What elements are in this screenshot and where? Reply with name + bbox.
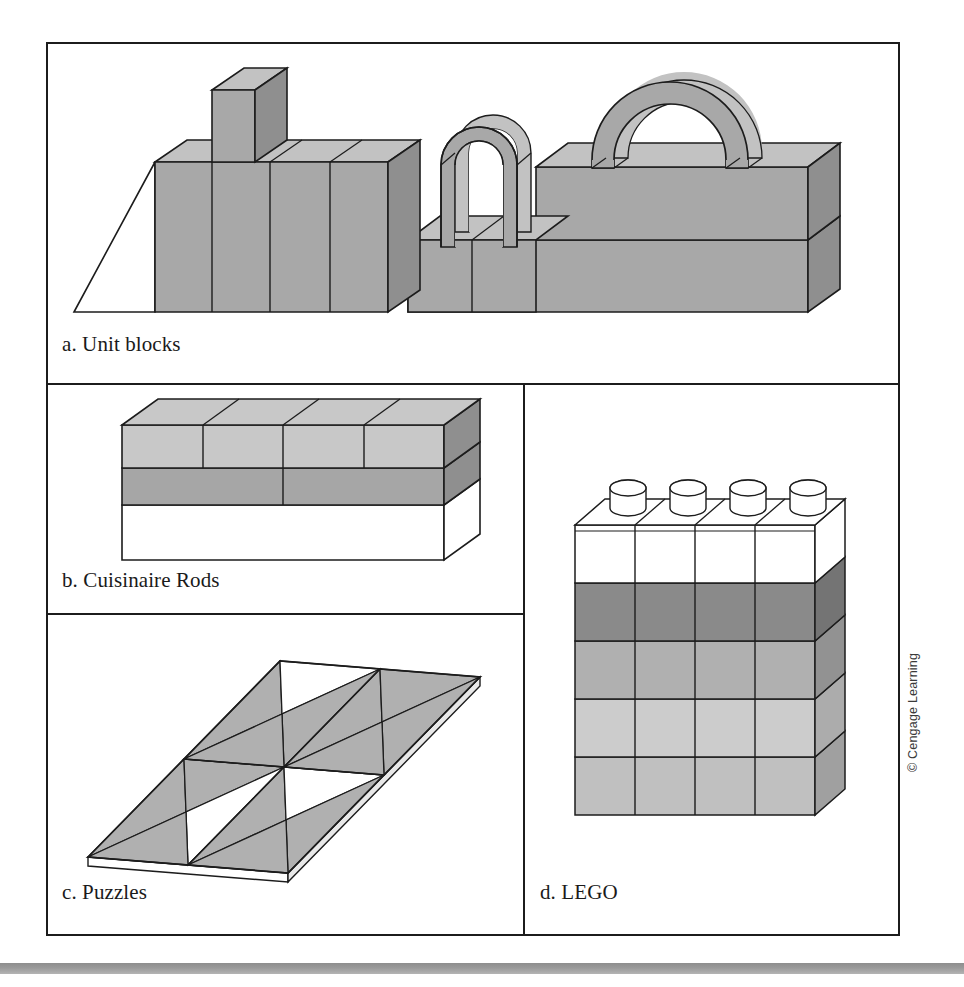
- figure-outer-frame: [46, 42, 900, 936]
- panel-d-label: d. LEGO: [540, 880, 618, 905]
- divider-between-b-and-c: [46, 613, 525, 615]
- figure-root: a. Unit blocks b. Cuisinaire Rods c. Puz…: [0, 0, 964, 987]
- panel-c-label: c. Puzzles: [62, 880, 147, 905]
- page-footer-rule: [0, 963, 964, 974]
- divider-between-a-and-b: [46, 383, 900, 385]
- copyright-credit: © Cengage Learning: [906, 612, 920, 772]
- divider-between-left-and-d: [523, 383, 525, 936]
- panel-b-label: b. Cuisinaire Rods: [62, 568, 220, 593]
- panel-a-label: a. Unit blocks: [62, 332, 181, 357]
